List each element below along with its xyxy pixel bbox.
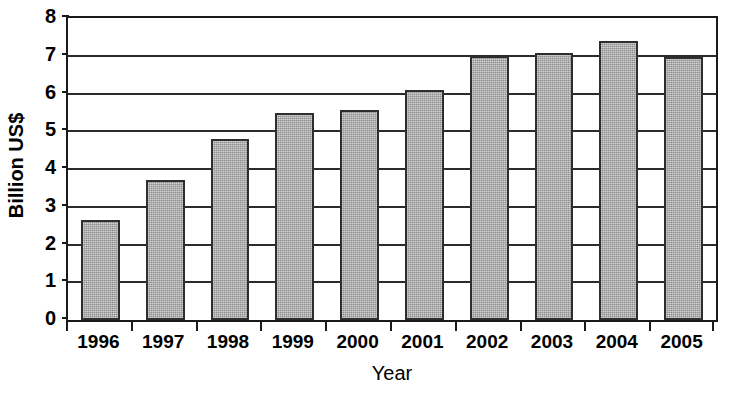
y-axis-title: Billion US$ bbox=[0, 0, 34, 330]
bar-slot bbox=[198, 18, 263, 320]
y-axis-tick-label: 3 bbox=[45, 195, 56, 215]
y-axis-tick-label: 5 bbox=[45, 119, 56, 139]
x-axis-tick-label: 2004 bbox=[596, 332, 638, 353]
bar-slot bbox=[457, 18, 522, 320]
x-axis-tick-label: 2002 bbox=[466, 332, 508, 353]
y-axis-tick-label: 8 bbox=[45, 6, 56, 26]
x-axis-tick-mark bbox=[584, 322, 586, 331]
bar[interactable] bbox=[470, 56, 509, 320]
bar[interactable] bbox=[81, 220, 120, 320]
x-axis-tick-mark bbox=[325, 322, 327, 331]
x-axis-tick-mark bbox=[520, 322, 522, 331]
bar-slot bbox=[262, 18, 327, 320]
y-axis-tick-label: 1 bbox=[45, 270, 56, 290]
x-axis-title: Year bbox=[66, 362, 718, 385]
y-axis-tick-labels: 012345678 bbox=[30, 0, 60, 340]
y-axis-tick-label: 4 bbox=[45, 157, 56, 177]
bar-slot bbox=[586, 18, 651, 320]
bar[interactable] bbox=[340, 110, 379, 320]
bar-slot bbox=[133, 18, 198, 320]
bar[interactable] bbox=[535, 53, 574, 320]
bar[interactable] bbox=[664, 57, 703, 320]
bar-slot bbox=[392, 18, 457, 320]
bar-slot bbox=[327, 18, 392, 320]
bar-slot bbox=[522, 18, 587, 320]
x-axis-tick-mark bbox=[260, 322, 262, 331]
plot-area bbox=[66, 16, 718, 322]
bar-chart-figure: Billion US$ 012345678 199619971998199920… bbox=[0, 0, 744, 396]
bar[interactable] bbox=[211, 139, 250, 320]
x-axis-tick-label: 1997 bbox=[142, 332, 184, 353]
bars-layer bbox=[68, 18, 716, 320]
x-axis-tick-labels: 1996199719981999200020012002200320042005 bbox=[66, 332, 718, 360]
bar[interactable] bbox=[599, 41, 638, 320]
bar[interactable] bbox=[405, 90, 444, 320]
x-axis-tick-label: 1998 bbox=[207, 332, 249, 353]
x-axis-tick-marks bbox=[66, 322, 718, 331]
x-axis-tick-label: 2003 bbox=[531, 332, 573, 353]
y-axis-tick-label: 2 bbox=[45, 233, 56, 253]
x-axis-tick-mark bbox=[455, 322, 457, 331]
x-axis-tick-label: 1999 bbox=[272, 332, 314, 353]
bar[interactable] bbox=[275, 113, 314, 320]
x-axis-tick-mark bbox=[712, 322, 714, 331]
x-axis-tick-mark bbox=[66, 322, 68, 331]
x-axis-tick-label: 2000 bbox=[336, 332, 378, 353]
x-axis-tick-label: 2005 bbox=[660, 332, 702, 353]
x-axis-tick-mark bbox=[390, 322, 392, 331]
x-axis-tick-mark bbox=[649, 322, 651, 331]
x-axis-tick-label: 1996 bbox=[77, 332, 119, 353]
x-axis-tick-mark bbox=[196, 322, 198, 331]
x-axis-tick-mark bbox=[131, 322, 133, 331]
y-axis-tick-label: 7 bbox=[45, 44, 56, 64]
bar-slot bbox=[68, 18, 133, 320]
y-axis-title-label: Billion US$ bbox=[6, 112, 29, 218]
y-axis-tick-label: 0 bbox=[45, 308, 56, 328]
bar[interactable] bbox=[146, 180, 185, 320]
y-axis-tick-label: 6 bbox=[45, 82, 56, 102]
x-axis-tick-label: 2001 bbox=[401, 332, 443, 353]
bar-slot bbox=[651, 18, 716, 320]
